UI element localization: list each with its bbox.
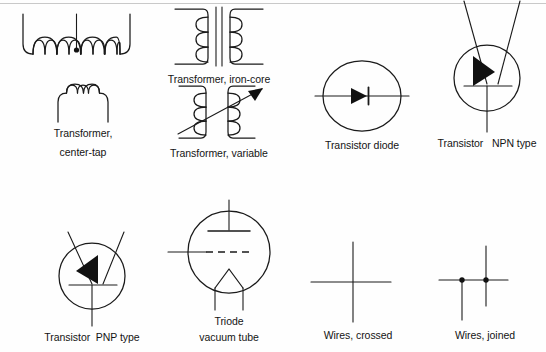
caption-wires-joined: Wires, joined xyxy=(424,328,546,342)
symbol-transistor-pnp: Transistor PNP type xyxy=(28,226,156,346)
caption-transistor-diode: Transistor diode xyxy=(303,138,421,152)
symbol-triode-vacuum-tube: Triode vacuum tube xyxy=(168,200,290,350)
transformer-center-tap-art xyxy=(24,82,142,124)
caption-transistor-pnp: Transistor PNP type xyxy=(28,330,156,344)
caption-triode-line1: Triode xyxy=(168,314,290,328)
symbol-wires-joined: Wires, joined xyxy=(424,242,546,347)
transistor-diode-art xyxy=(303,58,421,134)
transistor-npn-art xyxy=(428,0,546,136)
symbol-wires-crossed: Wires, crossed xyxy=(298,242,418,347)
caption-transistor-npn: Transistor NPN type xyxy=(428,136,546,150)
symbol-transformer-center-tap-winding xyxy=(14,6,139,66)
transformer-variable-art xyxy=(160,84,278,142)
caption-triode-line2: vacuum tube xyxy=(168,330,290,344)
caption-transformer-variable: Transformer, variable xyxy=(160,146,278,160)
wires-joined-art xyxy=(424,242,546,324)
symbol-transistor-npn: Transistor NPN type xyxy=(428,0,546,158)
triode-vacuum-tube-art xyxy=(168,200,290,312)
symbol-transistor-diode: Transistor diode xyxy=(303,58,421,158)
symbol-transformer-center-tap: Transformer, center-tap xyxy=(24,82,142,154)
symbol-transformer-iron-core: Transformer, iron-core xyxy=(160,6,278,84)
caption-transformer-center-tap-line1: Transformer, xyxy=(24,126,142,140)
transformer-iron-core-art xyxy=(160,6,278,68)
schematic-symbols-sheet: Transformer, iron-core Transistor diode … xyxy=(0,0,546,352)
wires-crossed-art xyxy=(298,242,418,324)
transformer-center-tap-winding-art xyxy=(14,6,139,66)
transistor-pnp-art xyxy=(28,226,156,332)
caption-transformer-center-tap-line2: center-tap xyxy=(24,145,142,159)
symbol-transformer-variable: Transformer, variable xyxy=(160,84,278,156)
caption-wires-crossed: Wires, crossed xyxy=(298,328,418,342)
